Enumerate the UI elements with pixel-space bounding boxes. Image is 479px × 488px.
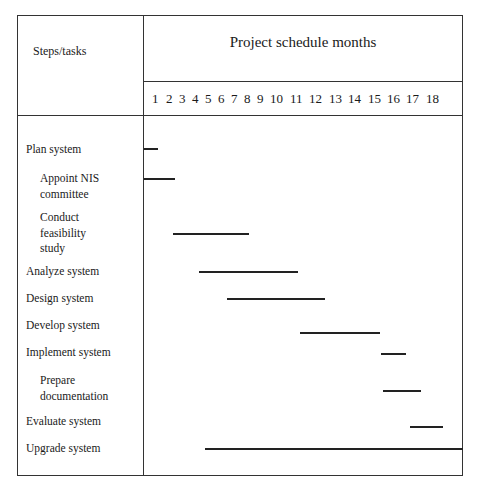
task-label: Upgrade system <box>26 441 100 457</box>
month-label: 16 <box>387 91 400 107</box>
month-label: 13 <box>329 91 342 107</box>
gantt-bar-prepare-documentation <box>383 390 421 392</box>
gantt-bar-evaluate-system <box>410 426 443 428</box>
gantt-bar-implement-system <box>381 353 406 355</box>
header-divider <box>143 81 463 82</box>
month-label: 12 <box>309 91 322 107</box>
month-label: 10 <box>270 91 283 107</box>
month-label: 18 <box>426 91 439 107</box>
task-label: Analyze system <box>26 264 99 280</box>
task-label: Design system <box>26 291 93 307</box>
task-label: Develop system <box>26 318 100 334</box>
gantt-bar-plan-system <box>144 148 158 150</box>
task-label: Evaluate system <box>26 414 101 430</box>
month-label: 3 <box>179 91 186 107</box>
task-label: Appoint NIS committee <box>40 171 120 202</box>
header-bottom-divider <box>17 115 463 116</box>
gantt-bar-appoint-committee <box>144 178 175 180</box>
month-label: 15 <box>368 91 381 107</box>
month-label: 1 <box>152 91 159 107</box>
gantt-bar-design-system <box>227 298 325 300</box>
gantt-bar-upgrade-system <box>205 448 463 450</box>
month-label: 4 <box>192 91 199 107</box>
gantt-bar-feasibility-study <box>173 233 249 235</box>
month-label: 2 <box>166 91 173 107</box>
task-label: Plan system <box>26 142 81 158</box>
month-label: 7 <box>231 91 238 107</box>
task-label: Conduct feasibility study <box>40 210 100 257</box>
gantt-bar-develop-system <box>300 332 380 334</box>
month-label: 8 <box>244 91 251 107</box>
steps-column-header: Steps/tasks <box>33 44 86 59</box>
schedule-header: Project schedule months <box>143 34 463 51</box>
month-label: 5 <box>205 91 212 107</box>
column-divider <box>143 15 144 476</box>
gantt-bar-analyze-system <box>199 271 298 273</box>
month-label: 11 <box>290 91 303 107</box>
month-label: 6 <box>218 91 225 107</box>
task-label: Implement system <box>26 345 111 361</box>
task-label: Prepare documentation <box>40 373 120 404</box>
month-label: 17 <box>406 91 419 107</box>
month-label: 9 <box>257 91 264 107</box>
month-label: 14 <box>348 91 361 107</box>
